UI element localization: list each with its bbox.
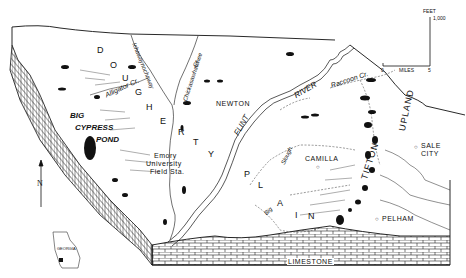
region-letter: O <box>110 61 117 70</box>
region-letter: H <box>146 103 153 112</box>
region-letter: R <box>178 128 185 137</box>
region-letter: N <box>308 212 315 221</box>
scale-miles-end: 5 <box>428 68 431 73</box>
region-letter: L <box>258 181 263 190</box>
ichawaynochaway-creek <box>131 35 175 240</box>
block-diagram: D O U G H E R T Y P L A I N TIFTON UPLAN… <box>0 0 466 278</box>
georgia-inset-label: GEORGIA <box>57 247 76 251</box>
region-letter: A <box>277 199 283 208</box>
sale-city-label: SALE <box>421 142 441 149</box>
emory-label: Emory <box>154 152 177 159</box>
block-diagram-drawing <box>0 0 466 278</box>
emory-label: University <box>146 160 182 167</box>
scale-feet-unit: FEET <box>423 9 436 14</box>
region-letter: T <box>193 138 199 147</box>
camilla-marker-icon: ○ <box>316 164 320 170</box>
big-cypress-pond-label: BIG <box>70 112 84 120</box>
newton-label: NEWTON <box>216 100 250 107</box>
region-letter: I <box>295 211 298 220</box>
sale-city-marker-icon: ○ <box>414 144 418 150</box>
pelham-marker-icon: ○ <box>375 216 379 222</box>
region-letter: P <box>244 170 250 179</box>
big-cypress-pond-label: CYPRESS <box>75 124 113 132</box>
limestone-left-face <box>10 45 152 265</box>
region-letter: Y <box>208 150 214 159</box>
region-letter: G <box>135 88 142 97</box>
big-cypress-pond-label: POND <box>96 136 119 144</box>
limestone-label: LIMESTONE <box>287 258 334 265</box>
scale-feet-value: 1,000 <box>433 16 446 21</box>
scale-bar <box>383 17 430 66</box>
sale-city-label: CITY <box>421 150 439 157</box>
region-letter: D <box>97 46 104 55</box>
north-label: N <box>37 180 43 188</box>
pelham-label: PELHAM <box>382 215 414 222</box>
region-letter: E <box>160 117 166 126</box>
scale-miles-unit: MILES <box>399 68 414 73</box>
camilla-label: CAMILLA <box>305 155 338 162</box>
emory-label: Field Sta. <box>150 168 185 175</box>
scale-miles-start: 0 <box>381 68 384 73</box>
